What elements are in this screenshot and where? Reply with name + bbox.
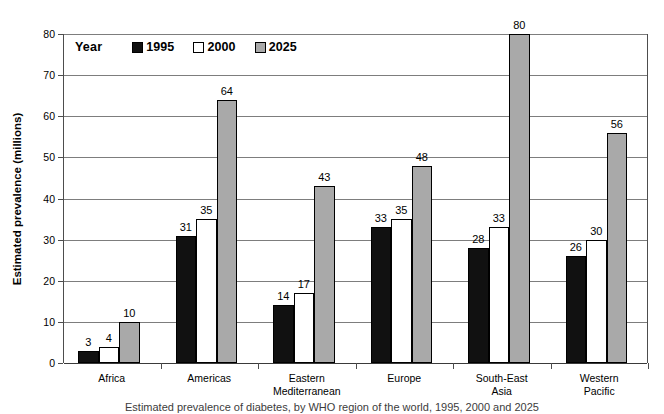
bar-eastern-mediterranean-2025 [314, 186, 335, 363]
legend-item-1995: 1995 [132, 40, 174, 54]
y-tick-mark-10 [58, 322, 63, 323]
x-tick-mark [258, 363, 259, 369]
bar-eastern-mediterranean-1995 [273, 305, 294, 363]
y-tick-mark-20 [58, 281, 63, 282]
legend: Year 1995 2000 2025 [75, 38, 316, 56]
bar-value-label: 56 [601, 118, 634, 130]
bar-western-pacific-1995 [566, 256, 587, 363]
gridline-60 [64, 116, 647, 117]
y-tick-label-10: 10 [15, 317, 55, 327]
legend-label-1995: 1995 [146, 40, 174, 54]
x-tick-mark [161, 363, 162, 369]
y-tick-label-60: 60 [15, 111, 55, 121]
y-tick-mark-50 [58, 157, 63, 158]
x-category-label: Africa [63, 372, 161, 385]
black-square-icon [132, 42, 143, 53]
x-category-label: South-East Asia [453, 372, 551, 397]
x-category-label: Europe [356, 372, 454, 385]
figure-caption: Estimated prevalence of diabetes, by WHO… [0, 401, 664, 414]
bar-africa-1995 [78, 351, 99, 363]
legend-title: Year [75, 40, 102, 54]
gridline-80 [64, 34, 647, 35]
bar-europe-1995 [371, 227, 392, 363]
gridline-70 [64, 75, 647, 76]
bar-europe-2025 [412, 166, 433, 363]
gridline-40 [64, 199, 647, 200]
bar-value-label: 10 [113, 307, 146, 319]
bar-south-east-asia-2000 [489, 227, 510, 363]
legend-label-2025: 2025 [269, 40, 297, 54]
y-tick-mark-80 [58, 34, 63, 35]
y-tick-mark-40 [58, 199, 63, 200]
bar-americas-2025 [217, 100, 238, 363]
bar-value-label: 43 [308, 171, 341, 183]
x-category-label: Western Pacific [551, 372, 649, 397]
y-tick-label-70: 70 [15, 70, 55, 80]
bar-south-east-asia-2025 [509, 34, 530, 363]
y-tick-label-80: 80 [15, 29, 55, 39]
x-tick-mark [551, 363, 552, 369]
y-tick-label-0: 0 [15, 358, 55, 368]
gray-square-icon [255, 42, 266, 53]
y-tick-mark-70 [58, 75, 63, 76]
bar-africa-2025 [119, 322, 140, 363]
x-tick-mark [453, 363, 454, 369]
white-square-icon [193, 42, 204, 53]
x-tick-mark [356, 363, 357, 369]
legend-item-2000: 2000 [193, 40, 235, 54]
bar-value-label: 48 [406, 151, 439, 163]
bar-eastern-mediterranean-2000 [294, 293, 315, 363]
bar-western-pacific-2000 [586, 240, 607, 363]
bar-western-pacific-2025 [607, 133, 628, 363]
plot-area: 3410313564141743333548283380263056 [63, 34, 648, 363]
y-tick-mark-60 [58, 116, 63, 117]
x-category-label: Americas [161, 372, 259, 385]
bar-americas-1995 [176, 236, 197, 363]
bar-europe-2000 [391, 219, 412, 363]
y-tick-mark-30 [58, 240, 63, 241]
y-tick-label-20: 20 [15, 276, 55, 286]
x-category-label: Eastern Mediterranean [258, 372, 356, 397]
bar-value-label: 80 [503, 19, 536, 31]
gridline-50 [64, 157, 647, 158]
gridline-10 [64, 322, 647, 323]
legend-label-2000: 2000 [207, 40, 235, 54]
bar-south-east-asia-1995 [468, 248, 489, 363]
y-tick-label-50: 50 [15, 152, 55, 162]
y-tick-mark-0 [58, 363, 63, 364]
y-tick-label-40: 40 [15, 194, 55, 204]
y-axis-title-container: Estimated prevalence (millions) [0, 0, 24, 409]
bar-americas-2000 [196, 219, 217, 363]
x-tick-mark [648, 363, 649, 369]
y-tick-label-30: 30 [15, 235, 55, 245]
legend-item-2025: 2025 [255, 40, 297, 54]
bar-value-label: 64 [211, 85, 244, 97]
bar-africa-2000 [99, 347, 120, 363]
gridline-20 [64, 281, 647, 282]
